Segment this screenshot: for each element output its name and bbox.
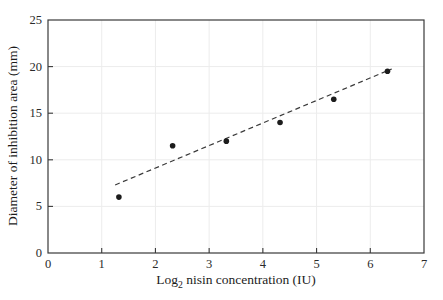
x-axis-title-text: Log xyxy=(156,272,178,287)
trend-line xyxy=(115,69,392,185)
plot-frame xyxy=(48,20,424,253)
y-tick-label: 25 xyxy=(30,13,43,27)
x-tick-label: 6 xyxy=(367,257,373,271)
x-tick-label: 7 xyxy=(421,257,427,271)
x-tick-label: 1 xyxy=(99,257,105,271)
scatter-chart-figure: 012345670510152025 Diameter of inhibitio… xyxy=(0,0,443,300)
y-tick-label: 15 xyxy=(30,106,43,120)
x-tick-label: 5 xyxy=(313,257,319,271)
plot-area: 012345670510152025 xyxy=(0,0,443,300)
y-tick-label: 20 xyxy=(30,60,43,74)
data-point xyxy=(170,143,176,149)
x-tick-label: 4 xyxy=(260,257,267,271)
y-tick-label: 0 xyxy=(36,246,42,260)
x-tick-label: 2 xyxy=(152,257,158,271)
x-tick-label: 3 xyxy=(206,257,212,271)
data-point xyxy=(385,68,391,74)
y-tick-label: 10 xyxy=(30,153,43,167)
x-tick-label: 0 xyxy=(45,257,51,271)
y-tick-label: 5 xyxy=(36,199,42,213)
data-point xyxy=(277,120,283,126)
data-point xyxy=(116,194,122,200)
data-point xyxy=(331,96,337,102)
x-axis-title-text: nisin concentration (IU) xyxy=(183,272,316,287)
x-axis-title: Log2 nisin concentration (IU) xyxy=(48,273,424,289)
data-point xyxy=(224,138,230,144)
y-axis-title: Diameter of inhibition area (mm) xyxy=(6,46,20,226)
